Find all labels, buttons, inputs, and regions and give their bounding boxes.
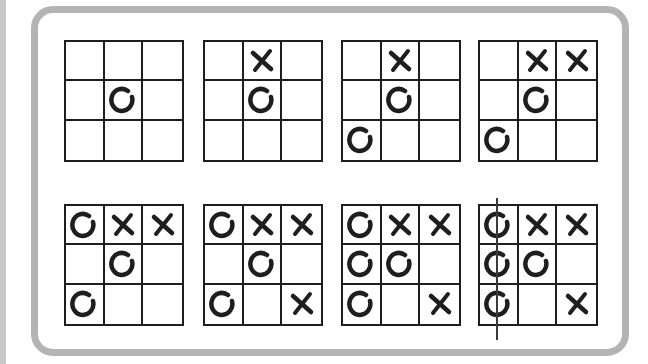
board-cell (480, 42, 519, 81)
board-cell (519, 245, 558, 284)
board-step-4 (478, 40, 598, 162)
board-cell (244, 121, 283, 160)
winning-line (496, 198, 498, 340)
board-step-5 (64, 204, 184, 326)
board-cell (480, 245, 519, 284)
board-cell (382, 121, 421, 160)
board-cell (519, 81, 558, 120)
board-cell (343, 245, 382, 284)
board-cell (557, 245, 596, 284)
board-cell (105, 121, 144, 160)
board-cell (205, 42, 244, 81)
board-cell (282, 42, 321, 81)
board-cell (420, 42, 459, 81)
board-cell (66, 206, 105, 245)
board-cell (480, 285, 519, 324)
board-cell (282, 245, 321, 284)
board-cell (557, 206, 596, 245)
left-edge-strip (0, 0, 6, 364)
board-cell (205, 81, 244, 120)
board-step-2 (203, 40, 323, 162)
board-cell (244, 206, 283, 245)
board-cell (420, 121, 459, 160)
board-cell (519, 285, 558, 324)
board-cell (105, 245, 144, 284)
board-cell (143, 81, 182, 120)
board-cell (282, 206, 321, 245)
board-cell (519, 206, 558, 245)
board-cell (480, 121, 519, 160)
board-cell (244, 245, 283, 284)
board-cell (205, 245, 244, 284)
board-cell (382, 42, 421, 81)
board-cell (480, 81, 519, 120)
board-cell (66, 285, 105, 324)
board-cell (519, 121, 558, 160)
board-step-7 (341, 204, 461, 326)
board-step-3 (341, 40, 461, 162)
board-cell (420, 81, 459, 120)
board-cell (244, 81, 283, 120)
board-cell (382, 285, 421, 324)
board-cell (420, 206, 459, 245)
board-cell (105, 285, 144, 324)
board-cell (282, 285, 321, 324)
board-cell (343, 81, 382, 120)
board-cell (66, 121, 105, 160)
board-cell (66, 81, 105, 120)
board-cell (557, 42, 596, 81)
board-cell (105, 206, 144, 245)
board-cell (244, 42, 283, 81)
board-cell (282, 121, 321, 160)
board-cell (66, 245, 105, 284)
board-cell (382, 206, 421, 245)
board-cell (343, 121, 382, 160)
board-step-6 (203, 204, 323, 326)
board-cell (205, 206, 244, 245)
board-cell (420, 285, 459, 324)
board-cell (143, 206, 182, 245)
board-cell (143, 42, 182, 81)
board-cell (205, 285, 244, 324)
board-cell (244, 285, 283, 324)
board-cell (557, 285, 596, 324)
board-cell (382, 81, 421, 120)
board-cell (205, 121, 244, 160)
board-cell (343, 206, 382, 245)
board-cell (143, 285, 182, 324)
board-step-1 (64, 40, 184, 162)
board-cell (382, 245, 421, 284)
board-cell (105, 42, 144, 81)
board-cell (143, 245, 182, 284)
board-cell (519, 42, 558, 81)
board-cell (343, 285, 382, 324)
board-cell (420, 245, 459, 284)
board-cell (557, 81, 596, 120)
board-cell (143, 121, 182, 160)
board-cell (66, 42, 105, 81)
board-cell (343, 42, 382, 81)
board-cell (282, 81, 321, 120)
board-cell (105, 81, 144, 120)
board-cell (480, 206, 519, 245)
board-cell (557, 121, 596, 160)
